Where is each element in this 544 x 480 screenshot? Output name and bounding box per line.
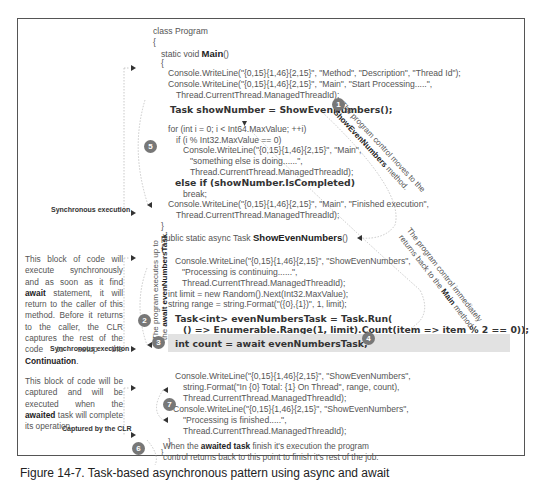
code-line: Thread.CurrentThread.ManagedThreadId); — [176, 210, 339, 221]
main-decl-prefix: static void — [161, 49, 202, 59]
code-line: "Processing is finished.....", — [183, 415, 287, 426]
note-text: This block of code will be captured and … — [25, 376, 123, 409]
note-text: . — [76, 356, 78, 366]
note-captured-block: This block of code will be captured and … — [25, 376, 123, 432]
code-async-decl: public static async Task ShowEvenNumbers… — [161, 232, 348, 244]
code-line: Thread.CurrentThread.ManagedThreadId); — [182, 278, 345, 289]
note-bold-await: await — [25, 288, 46, 298]
note-text: This block of code will execute synchron… — [25, 254, 123, 287]
step-badge-7: 7 — [163, 398, 176, 411]
code-line: "something else is doing......", — [190, 156, 303, 167]
code-task-call: Task showNumber = ShowEvenNumbers(); — [170, 104, 392, 115]
async-decl-name: ShowEvenNumbers — [253, 232, 342, 243]
code-line: Thread.CurrentThread.ManagedThreadId); — [176, 90, 339, 101]
code-line: Console.WriteLine("{0,15}{1,46}{2,15}", … — [168, 199, 429, 210]
code-await-line: int count = await evenNumbersTask; — [175, 338, 368, 349]
code-line: string.Format("In {0} Total: {1} On Thre… — [183, 382, 399, 393]
code-line: Console.WriteLine("{0,15}{1,46}{2,15}", … — [173, 404, 409, 415]
code-line: Console.WriteLine("{0,15}{1,46}{2,15}", … — [175, 371, 411, 382]
code-line: "Processing is continuing......", — [182, 267, 298, 278]
step-badge-3: 3 — [152, 336, 165, 349]
note-bold-await: await evenNumbersTask. — [160, 232, 169, 327]
figure-caption: Figure 14-7. Task-based asynchronous pat… — [20, 466, 389, 480]
code-brace: { — [153, 37, 156, 48]
code-brace: { — [161, 58, 164, 69]
note-executes-up-to: The program executes up to — [151, 240, 160, 340]
code-line: Console.WriteLine("{0,15}{1,46}{2,15}", … — [168, 79, 432, 90]
code-else-if: else if (showNumber.IsCompleted) — [175, 177, 355, 188]
code-line: Console.WriteLine("{0,15}{1,46}{2,15}", … — [183, 145, 361, 156]
code-line: for (int i = 0; i < Int64.MaxValue; ++i) — [168, 124, 306, 135]
async-decl-prefix: public static async Task — [161, 233, 253, 243]
step-badge-1: 1 — [332, 98, 345, 111]
code-task-run: Task<int> evenNumbersTask = Task.Run( — [175, 313, 392, 324]
code-line: Console.WriteLine("{0,15}{1,46}{2,15}", … — [175, 256, 411, 267]
note-executes-up-to-2: the await evenNumbersTask. — [160, 232, 169, 340]
label-sync-exec-main: Synchronous execution — [51, 206, 130, 213]
code-brace: } — [161, 221, 164, 232]
code-class-decl: class Program — [153, 26, 208, 37]
note-awaited-finish: When the awaited task finish it's execut… — [163, 441, 369, 452]
note-awaited-finish-2: control returns back to this point to fi… — [163, 452, 379, 463]
main-decl-name: Main — [202, 48, 224, 59]
note-text: The program executes up to — [151, 240, 160, 340]
step-badge-5: 5 — [144, 140, 157, 153]
note-text: finish it's execution the program — [250, 441, 369, 451]
note-bold-continuation: Continuation — [25, 356, 76, 366]
note-bold-awaited-task: awaited task — [201, 441, 250, 451]
step-badge-6: 6 — [132, 442, 145, 455]
async-decl-suffix: () — [342, 233, 348, 243]
code-line: Thread.CurrentThread.ManagedThreadId); — [183, 426, 346, 437]
code-line: string range = string.Format("({0},{1})"… — [168, 299, 347, 310]
code-line: Thread.CurrentThread.ManagedThreadId); — [183, 393, 346, 404]
code-line: Console.WriteLine("{0,15}{1,46}{2,15}", … — [168, 68, 461, 79]
step-badge-2: 2 — [138, 314, 151, 327]
note-text: When the — [163, 441, 201, 451]
code-main-decl: static void Main() — [161, 48, 229, 60]
note-sync-block: This block of code will execute synchron… — [25, 254, 123, 367]
main-decl-suffix: () — [223, 49, 229, 59]
note-bold-awaited: awaited — [25, 410, 55, 420]
step-badge-4: 4 — [362, 332, 375, 345]
